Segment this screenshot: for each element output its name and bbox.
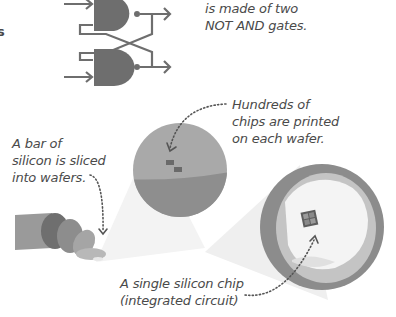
nand-gate-top bbox=[94, 0, 129, 31]
single-chip bbox=[301, 210, 319, 228]
magnified-wafer bbox=[260, 164, 384, 290]
nand-bubble-top bbox=[134, 11, 140, 17]
chip-b bbox=[174, 167, 182, 172]
nand-bubble-bottom bbox=[134, 64, 140, 70]
wafer-caption-line-3: on each wafer. bbox=[232, 130, 339, 147]
bar-caption: A bar of silicon is sliced into wafers. bbox=[12, 135, 106, 186]
output-arrow-bottom bbox=[140, 61, 170, 73]
input-arrow-bottom bbox=[64, 72, 92, 82]
wafer-caption-line-1: Hundreds of bbox=[232, 96, 339, 113]
latch-caption: is made of two NOT AND gates. bbox=[205, 0, 307, 34]
chip-caption-line-2: (integrated circuit) bbox=[120, 292, 244, 309]
latch-caption-line-2: NOT AND gates. bbox=[205, 17, 307, 34]
chip-caption-line-1: A single silicon chip bbox=[120, 275, 244, 292]
chip-caption: A single silicon chip (integrated circui… bbox=[120, 275, 244, 309]
chip-a bbox=[166, 160, 174, 165]
input-arrow-top bbox=[64, 0, 92, 9]
nand-gate-bottom bbox=[94, 49, 135, 86]
edge-text-fragment: s bbox=[0, 23, 5, 40]
bar-caption-line-3: into wafers. bbox=[12, 169, 106, 186]
latch-caption-line-1: is made of two bbox=[205, 0, 307, 17]
output-arrow-top bbox=[140, 8, 170, 20]
wafer-caption: Hundreds of chips are printed on each wa… bbox=[232, 96, 339, 147]
bar-caption-line-2: silicon is sliced bbox=[12, 152, 106, 169]
bar-caption-line-1: A bar of bbox=[12, 135, 106, 152]
wafer-caption-line-2: chips are printed bbox=[232, 113, 339, 130]
silicon-bar bbox=[15, 213, 106, 261]
